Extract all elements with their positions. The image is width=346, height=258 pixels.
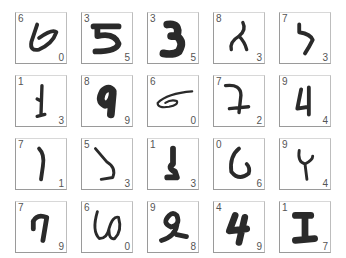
digit-cell: 6 0 bbox=[147, 75, 199, 127]
predicted-label: 1 bbox=[58, 178, 64, 189]
digit-cell: 5 3 bbox=[81, 138, 133, 190]
predicted-label: 9 bbox=[256, 241, 262, 252]
predicted-label: 4 bbox=[322, 115, 328, 126]
true-label: 7 bbox=[282, 13, 288, 24]
true-label: 1 bbox=[282, 202, 288, 213]
digit-grid: 6 0 3 5 3 5 8 3 7 3 1 3 8 9 6 0 7 2 bbox=[0, 0, 346, 258]
predicted-label: 3 bbox=[256, 52, 262, 63]
digit-cell: 1 3 bbox=[147, 138, 199, 190]
true-label: 7 bbox=[216, 76, 222, 87]
predicted-label: 0 bbox=[190, 115, 196, 126]
digit-cell: 9 8 bbox=[147, 201, 199, 253]
digit-cell: 9 4 bbox=[279, 138, 331, 190]
digit-cell: 7 1 bbox=[15, 138, 67, 190]
true-label: 1 bbox=[150, 139, 156, 150]
predicted-label: 8 bbox=[190, 241, 196, 252]
true-label: 8 bbox=[84, 76, 90, 87]
predicted-label: 3 bbox=[124, 178, 130, 189]
predicted-label: 5 bbox=[190, 52, 196, 63]
digit-cell: 6 0 bbox=[15, 12, 67, 64]
true-label: 6 bbox=[18, 13, 24, 24]
true-label: 0 bbox=[216, 139, 222, 150]
true-label: 7 bbox=[18, 202, 24, 213]
true-label: 9 bbox=[150, 202, 156, 213]
true-label: 4 bbox=[216, 202, 222, 213]
predicted-label: 7 bbox=[322, 241, 328, 252]
true-label: 8 bbox=[216, 13, 222, 24]
predicted-label: 5 bbox=[124, 52, 130, 63]
predicted-label: 6 bbox=[256, 178, 262, 189]
predicted-label: 2 bbox=[256, 115, 262, 126]
true-label: 6 bbox=[150, 76, 156, 87]
true-label: 5 bbox=[84, 139, 90, 150]
true-label: 7 bbox=[18, 139, 24, 150]
digit-cell: 4 9 bbox=[213, 201, 265, 253]
predicted-label: 9 bbox=[58, 241, 64, 252]
digit-cell: 9 4 bbox=[279, 75, 331, 127]
predicted-label: 3 bbox=[190, 178, 196, 189]
digit-cell: 3 5 bbox=[81, 12, 133, 64]
true-label: 9 bbox=[282, 139, 288, 150]
digit-cell: 0 6 bbox=[213, 138, 265, 190]
true-label: 3 bbox=[84, 13, 90, 24]
digit-cell: 3 5 bbox=[147, 12, 199, 64]
true-label: 1 bbox=[18, 76, 24, 87]
digit-cell: 1 3 bbox=[15, 75, 67, 127]
digit-cell: 7 9 bbox=[15, 201, 67, 253]
predicted-label: 9 bbox=[124, 115, 130, 126]
true-label: 6 bbox=[84, 202, 90, 213]
predicted-label: 3 bbox=[58, 115, 64, 126]
digit-cell: 8 3 bbox=[213, 12, 265, 64]
predicted-label: 0 bbox=[58, 52, 64, 63]
digit-cell: 8 9 bbox=[81, 75, 133, 127]
digit-cell: 7 3 bbox=[279, 12, 331, 64]
digit-cell: 7 2 bbox=[213, 75, 265, 127]
true-label: 9 bbox=[282, 76, 288, 87]
predicted-label: 4 bbox=[322, 178, 328, 189]
digit-cell: 6 0 bbox=[81, 201, 133, 253]
predicted-label: 3 bbox=[322, 52, 328, 63]
digit-cell: 1 7 bbox=[279, 201, 331, 253]
true-label: 3 bbox=[150, 13, 156, 24]
predicted-label: 0 bbox=[124, 241, 130, 252]
